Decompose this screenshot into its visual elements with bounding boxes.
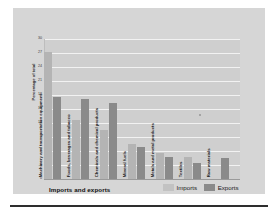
y-tick-label: 0 xyxy=(24,177,42,181)
category-label: Raw materials xyxy=(207,148,211,177)
category-label: Machinery and transportation equipment xyxy=(39,94,43,177)
bar-group: Raw materials xyxy=(212,39,240,179)
y-tick-label: 30 xyxy=(24,37,42,41)
bar-exports xyxy=(221,158,229,179)
x-axis-title: Imports and exports xyxy=(49,186,110,193)
legend-label: Imports xyxy=(177,184,198,191)
legend-label: Exports xyxy=(218,184,239,191)
category-label: Metals and metal products xyxy=(151,123,155,177)
bar-imports xyxy=(128,144,136,179)
legend-item: Exports xyxy=(204,184,238,191)
legend-item: Imports xyxy=(163,184,197,191)
y-axis-title: Percentage of total xyxy=(32,45,36,119)
x-axis-line xyxy=(44,179,240,180)
category-label: Textiles xyxy=(179,161,183,177)
bar-groups: Machinery and transportation equipmentFo… xyxy=(44,39,240,179)
figure: 302724211815129630 Percentage of total M… xyxy=(0,0,278,215)
bar-exports xyxy=(137,147,145,179)
chart-panel: 302724211815129630 Percentage of total M… xyxy=(13,8,265,194)
bar-exports xyxy=(81,99,89,179)
category-label: Foods, beverages and tobacco xyxy=(67,114,71,177)
category-label: Mineral fuels xyxy=(123,151,127,177)
bar-imports xyxy=(184,157,192,179)
bar-group: Metals and metal products xyxy=(156,39,184,179)
scan-artifact xyxy=(199,114,201,116)
bar-exports xyxy=(165,157,173,179)
legend: ImportsExports xyxy=(163,184,243,191)
bar-exports xyxy=(53,97,61,179)
bar-exports xyxy=(193,163,201,179)
bar-imports xyxy=(100,130,108,179)
footer-rule xyxy=(10,205,268,207)
legend-swatch xyxy=(163,184,174,191)
bar-exports xyxy=(109,103,117,179)
bar-imports xyxy=(44,52,52,179)
category-label: Chemicals and chemical products xyxy=(95,108,99,178)
bar-imports xyxy=(156,153,164,179)
legend-swatch xyxy=(204,184,215,191)
bar-imports xyxy=(72,120,80,179)
